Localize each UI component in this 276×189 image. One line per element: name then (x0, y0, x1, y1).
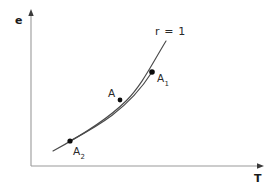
y-axis-label: e (15, 15, 23, 26)
plot-canvas (0, 0, 276, 189)
x-axis-label: T (254, 173, 262, 184)
marker-point-a1 (149, 69, 155, 75)
chord-a2-a1 (70, 72, 152, 141)
x-axis-arrowhead-icon (257, 163, 264, 168)
point-label-a1-subscript: 1 (164, 80, 168, 88)
point-label-a: A (108, 88, 115, 99)
curve-label-r: r = 1 (155, 26, 186, 37)
point-label-a2-subscript: 2 (80, 153, 84, 161)
marker-point-a (118, 98, 123, 103)
marker-point-a2 (67, 138, 72, 143)
y-axis-arrowhead-icon (28, 9, 33, 16)
e-t-diagram: e T r = 1 A A1 A2 (0, 0, 276, 189)
point-label-a2: A2 (73, 146, 85, 160)
point-label-a1: A1 (157, 73, 169, 87)
